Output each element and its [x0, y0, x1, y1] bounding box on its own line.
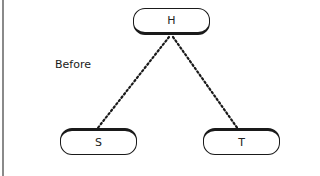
node-t[interactable]: T [203, 128, 280, 155]
node-h[interactable]: H [133, 8, 210, 35]
before-label: Before [55, 58, 91, 71]
node-h-label: H [167, 14, 175, 27]
edge-h-s [97, 37, 169, 129]
edge-h-t [173, 37, 238, 129]
node-s[interactable]: S [60, 128, 137, 155]
node-t-label: T [238, 136, 245, 149]
node-s-label: S [95, 136, 102, 149]
